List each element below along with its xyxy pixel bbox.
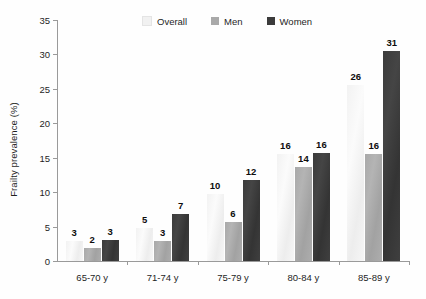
y-tick-mark bbox=[53, 89, 57, 90]
bar-overall-75-79y bbox=[207, 194, 224, 261]
bar-men-71-74y bbox=[154, 241, 171, 261]
frailty-prevalence-bar-chart: Frailty prevalence (%) Overall Men Women… bbox=[0, 0, 426, 299]
y-tick-label: 20 bbox=[39, 118, 50, 129]
y-tick-label: 5 bbox=[45, 221, 50, 232]
bar-value-label-women-65-70y: 3 bbox=[108, 226, 113, 237]
x-category-label-75-79y: 75-79 y bbox=[217, 272, 249, 283]
y-axis-title: Frailty prevalence (%) bbox=[0, 0, 26, 299]
bar-men-80-84y bbox=[295, 167, 312, 261]
bar-value-label-overall-65-70y: 3 bbox=[72, 227, 77, 238]
y-tick-label: 30 bbox=[39, 49, 50, 60]
bar-value-label-men-80-84y: 14 bbox=[298, 153, 309, 164]
y-tick-mark bbox=[53, 20, 57, 21]
y-tick-mark bbox=[53, 158, 57, 159]
bar-men-85-89y bbox=[365, 154, 382, 261]
x-category-label-71-74y: 71-74 y bbox=[147, 272, 179, 283]
bar-value-label-men-75-79y: 6 bbox=[230, 208, 235, 219]
bar-value-label-overall-75-79y: 10 bbox=[210, 180, 221, 191]
bar-overall-80-84y bbox=[277, 154, 294, 261]
y-tick-mark bbox=[53, 192, 57, 193]
bar-women-85-89y bbox=[383, 51, 400, 261]
y-axis-line bbox=[57, 20, 58, 261]
bar-value-label-women-85-89y: 31 bbox=[387, 37, 398, 48]
bar-value-label-overall-71-74y: 5 bbox=[142, 214, 147, 225]
y-tick-mark bbox=[53, 227, 57, 228]
bar-value-label-women-80-84y: 16 bbox=[316, 139, 327, 150]
y-tick-mark bbox=[53, 54, 57, 55]
x-category-label-80-84y: 80-84 y bbox=[288, 272, 320, 283]
bar-value-label-overall-85-89y: 26 bbox=[351, 71, 362, 82]
x-axis-line bbox=[57, 261, 409, 262]
bar-value-label-women-75-79y: 12 bbox=[246, 166, 257, 177]
bar-value-label-women-71-74y: 7 bbox=[178, 200, 183, 211]
bar-overall-71-74y bbox=[136, 228, 153, 261]
bar-overall-85-89y bbox=[347, 85, 364, 261]
bar-overall-65-70y bbox=[66, 241, 83, 261]
y-tick-label: 10 bbox=[39, 187, 50, 198]
bar-women-71-74y bbox=[172, 214, 189, 261]
x-tick-mark bbox=[127, 261, 128, 265]
y-tick-mark bbox=[53, 123, 57, 124]
bar-women-65-70y bbox=[102, 240, 119, 261]
y-tick-label: 15 bbox=[39, 152, 50, 163]
x-category-label-65-70y: 65-70 y bbox=[76, 272, 108, 283]
bar-value-label-men-65-70y: 2 bbox=[90, 234, 95, 245]
plot-area: 05101520253035 32353710612161416261631 bbox=[57, 20, 409, 261]
x-tick-mark bbox=[198, 261, 199, 265]
bar-men-65-70y bbox=[84, 248, 101, 261]
bar-value-label-overall-80-84y: 16 bbox=[280, 140, 291, 151]
y-tick-label: 35 bbox=[39, 15, 50, 26]
bar-value-label-men-71-74y: 3 bbox=[160, 227, 165, 238]
bar-women-75-79y bbox=[243, 180, 260, 261]
y-tick-label: 0 bbox=[45, 256, 50, 267]
y-tick-mark bbox=[53, 261, 57, 262]
x-tick-mark bbox=[409, 261, 410, 265]
x-tick-mark bbox=[339, 261, 340, 265]
x-tick-mark bbox=[268, 261, 269, 265]
x-category-label-85-89y: 85-89 y bbox=[358, 272, 390, 283]
bar-men-75-79y bbox=[225, 222, 242, 261]
y-tick-label: 25 bbox=[39, 83, 50, 94]
bar-value-label-men-85-89y: 16 bbox=[369, 140, 380, 151]
bar-women-80-84y bbox=[313, 153, 330, 261]
